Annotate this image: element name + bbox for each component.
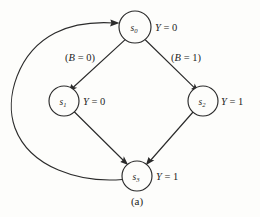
transition-s1-to-s3-arrowhead xyxy=(120,156,128,165)
transition-label-b-equals-0: (B = 0) xyxy=(65,52,95,64)
transition-s2-to-s3 xyxy=(146,112,194,166)
state-diagram-canvas: s0 Y = 0 s1 Y = 0 s2 Y = 1 s3 Y = 1 (B =… xyxy=(0,0,260,217)
transition-s3-to-s0-arrowhead xyxy=(110,20,120,27)
state-node-s1[interactable]: s1 Y = 0 xyxy=(49,86,105,116)
transition-s0-to-s1 xyxy=(68,40,125,92)
figure-caption: (a) xyxy=(131,195,144,208)
state-node-s2[interactable]: s2 Y = 1 xyxy=(188,86,243,116)
state-node-s3[interactable]: s3 Y = 1 xyxy=(122,161,178,191)
transition-label-b-equals-1: (B = 1) xyxy=(171,52,201,64)
state-output-s0: Y = 0 xyxy=(155,22,177,33)
transition-s0-to-s2-path xyxy=(146,40,195,88)
state-node-s0[interactable]: s0 Y = 0 xyxy=(119,11,177,43)
state-output-s3: Y = 1 xyxy=(156,171,178,182)
state-output-s1: Y = 0 xyxy=(83,96,105,107)
transition-s0-to-s1-path xyxy=(73,40,126,88)
state-output-s2: Y = 1 xyxy=(221,96,243,107)
transition-s0-to-s2 xyxy=(146,40,200,92)
transition-s2-to-s3-path xyxy=(150,112,194,162)
state-diagram-figure: s0 Y = 0 s1 Y = 0 s2 Y = 1 s3 Y = 1 (B =… xyxy=(0,0,260,217)
transition-s1-to-s3-path xyxy=(74,112,124,162)
transition-s1-to-s3 xyxy=(74,112,128,166)
